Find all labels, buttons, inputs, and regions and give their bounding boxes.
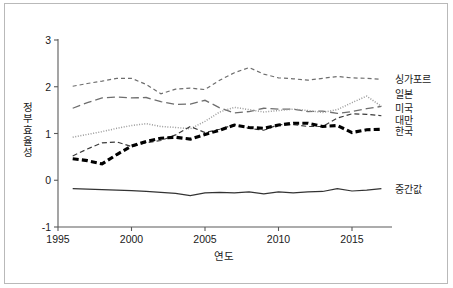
series-line-2 <box>73 96 382 137</box>
x-axis-ticks: 19952000200520102015 <box>46 227 364 245</box>
series-line-5 <box>73 189 382 196</box>
svg-text:효: 효 <box>23 124 33 136</box>
x-tick-label: 2010 <box>267 233 291 245</box>
legend-label-5: 중간값 <box>395 184 422 195</box>
legend-label-1: 일본 <box>395 89 413 100</box>
data-series-group <box>73 68 382 196</box>
y-tick-label: 3 <box>45 34 51 46</box>
legend: 싱가포르일본미국대만한국중간값 <box>395 74 431 195</box>
svg-text:성: 성 <box>23 146 33 158</box>
svg-text:부: 부 <box>23 112 33 124</box>
figure-container: -1012319952000200520102015연도정부효율성싱가포르일본미… <box>0 0 453 288</box>
x-tick-label: 2005 <box>193 233 217 245</box>
svg-text:율: 율 <box>23 135 33 147</box>
x-tick-label: 2015 <box>340 233 364 245</box>
legend-label-0: 싱가포르 <box>395 74 431 85</box>
legend-label-2: 미국 <box>395 103 413 114</box>
series-line-3 <box>73 114 382 156</box>
y-tick-label: 1 <box>45 128 51 140</box>
y-axis-ticks: -10123 <box>42 34 58 233</box>
y-tick-label: -1 <box>42 221 51 233</box>
series-line-0 <box>73 68 382 94</box>
x-tick-label: 1995 <box>46 233 70 245</box>
y-tick-label: 2 <box>45 81 51 93</box>
svg-text:정: 정 <box>23 101 33 113</box>
line-chart: -1012319952000200520102015연도정부효율성싱가포르일본미… <box>0 0 453 288</box>
legend-label-3: 대만 <box>395 115 413 126</box>
x-tick-label: 2000 <box>120 233 144 245</box>
series-line-4 <box>73 123 382 164</box>
y-axis-title: 정부효율성 <box>23 101 33 158</box>
x-axis-title: 연도 <box>214 250 234 262</box>
legend-label-4: 한국 <box>395 126 413 137</box>
series-line-1 <box>73 97 382 113</box>
axes <box>58 39 392 227</box>
y-tick-label: 0 <box>45 174 51 186</box>
